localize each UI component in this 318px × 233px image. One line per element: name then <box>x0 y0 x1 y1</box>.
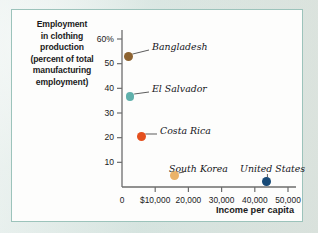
point-label-united-states: United States <box>240 163 305 174</box>
screenshot-canvas: Employment in clothing production (perce… <box>0 0 318 233</box>
point-label-bangladesh: Bangladesh <box>152 41 208 52</box>
y-tick-label: 10 <box>88 157 114 167</box>
data-point-bangladesh[interactable] <box>124 52 133 61</box>
data-point-united-states[interactable] <box>262 177 271 186</box>
point-label-el-salvador: El Salvador <box>152 83 207 94</box>
y-tick-label: 50 <box>88 58 114 68</box>
y-tick-label: 20 <box>88 132 114 142</box>
x-tick-label: 50,000 <box>265 195 311 205</box>
data-point-el-salvador[interactable] <box>126 92 135 101</box>
point-label-south-korea: South Korea <box>169 163 228 174</box>
y-tick-label: 40 <box>88 83 114 93</box>
data-point-costa-rica[interactable] <box>137 132 146 141</box>
x-axis-title: Income per capita <box>216 205 294 215</box>
point-label-costa-rica: Costa Rica <box>160 125 211 136</box>
y-tick-label: 60% <box>88 34 114 44</box>
chart-panel: Employment in clothing production (perce… <box>11 9 303 222</box>
scatter-plot: Employment in clothing production (perce… <box>12 10 302 221</box>
y-tick-label: 30 <box>88 108 114 118</box>
